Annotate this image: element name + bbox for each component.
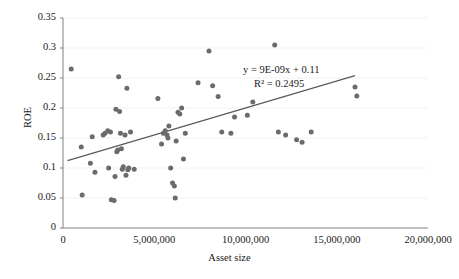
trendline-r2-label: R² = 0.2495 — [254, 78, 304, 89]
data-point — [118, 131, 123, 136]
x-tick-label: 20,000,000 — [383, 234, 459, 245]
data-point — [353, 85, 358, 90]
y-tick-label: 0 — [0, 221, 56, 232]
data-point — [276, 130, 281, 135]
data-point — [80, 193, 85, 198]
x-tick-label: 15,000,000 — [292, 234, 382, 245]
trendline-equation-label: y = 9E-09x + 0.11 — [243, 64, 320, 75]
data-point — [309, 130, 314, 135]
data-point — [106, 166, 111, 171]
data-point — [165, 136, 170, 141]
data-point — [173, 196, 178, 201]
x-axis-title: Asset size — [0, 252, 459, 263]
data-point — [272, 43, 277, 48]
data-point — [177, 112, 182, 117]
data-point — [132, 167, 137, 172]
data-point — [294, 137, 299, 142]
x-tick-label: 5,000,000 — [109, 234, 199, 245]
data-point — [283, 133, 288, 138]
x-tick-label: 10,000,000 — [201, 234, 291, 245]
data-point — [216, 94, 221, 99]
data-point — [79, 145, 84, 150]
data-point — [210, 83, 215, 88]
data-point — [168, 166, 173, 171]
data-point — [354, 94, 359, 99]
data-point — [124, 86, 129, 91]
data-point — [232, 115, 237, 120]
data-point — [123, 173, 128, 178]
y-axis-title: ROE — [22, 88, 33, 148]
data-point — [179, 106, 184, 111]
data-point — [117, 109, 122, 114]
data-point — [245, 113, 250, 118]
data-point — [181, 157, 186, 162]
data-point — [92, 170, 97, 175]
data-point — [69, 67, 74, 72]
data-point — [90, 134, 95, 139]
data-point — [207, 49, 212, 54]
data-point — [128, 130, 133, 135]
data-point — [172, 184, 177, 189]
data-point — [112, 198, 117, 203]
y-tick-label: 0.05 — [0, 191, 56, 202]
data-point — [108, 130, 113, 135]
axis-lines — [60, 18, 428, 228]
data-point — [113, 174, 118, 179]
data-point — [219, 130, 224, 135]
data-point — [126, 166, 131, 171]
y-tick-label: 0.3 — [0, 41, 56, 52]
x-tick-label: 0 — [18, 234, 108, 245]
data-point — [250, 100, 255, 105]
trendline — [68, 76, 355, 161]
data-point — [155, 96, 160, 101]
data-point — [88, 161, 93, 166]
data-point — [159, 142, 164, 147]
data-point — [196, 80, 201, 85]
data-point — [166, 124, 171, 129]
data-point — [183, 131, 188, 136]
trendline-path — [68, 76, 355, 161]
data-point — [121, 164, 126, 169]
y-tick-label: 0.1 — [0, 161, 56, 172]
data-point — [174, 139, 179, 144]
data-point — [123, 133, 128, 138]
data-point — [119, 146, 124, 151]
data-point — [228, 131, 233, 136]
scatter-chart: 00.050.10.150.20.250.30.35 05,000,00010,… — [0, 0, 459, 279]
y-tick-label: 0.25 — [0, 71, 56, 82]
data-point — [300, 140, 305, 145]
y-tick-label: 0.35 — [0, 11, 56, 22]
data-point — [116, 74, 121, 79]
